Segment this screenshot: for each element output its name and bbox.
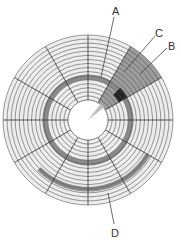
disk xyxy=(3,35,173,205)
disk-diagram: A C B D xyxy=(0,0,181,242)
label-c: C xyxy=(155,27,163,39)
label-a: A xyxy=(112,5,120,17)
label-d: D xyxy=(111,227,119,239)
label-b: B xyxy=(168,40,175,52)
